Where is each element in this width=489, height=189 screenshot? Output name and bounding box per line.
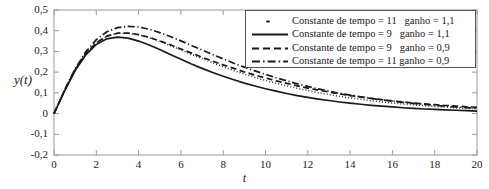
x-tick-label: 8 [208, 158, 238, 170]
legend-line-sample-dotted [246, 14, 292, 27]
legend-line-sample-dashdot [246, 54, 292, 67]
chart-figure: y(t) t 0,50,40,30,20,10-0,1-0,2 02468101… [0, 0, 489, 189]
legend-line-sample-dashed [246, 41, 292, 54]
x-tick-label: 4 [124, 158, 154, 170]
x-axis-label: t [0, 171, 489, 186]
legend-item-label: Constante de tempo = 11 ganho = 1,1 [292, 14, 455, 27]
x-tick-label: 0 [39, 158, 69, 170]
x-tick-label: 20 [462, 158, 489, 170]
y-tick-label: 0,2 [8, 65, 48, 77]
legend-item: Constante de tempo = 9 ganho = 0,9 [246, 41, 477, 54]
x-tick-label: 16 [377, 158, 407, 170]
legend-item: Constante de tempo = 11 ganho = 1,1 [246, 14, 477, 27]
x-tick-label: 18 [420, 158, 450, 170]
legend: Constante de tempo = 11 ganho = 1,1Const… [245, 10, 476, 68]
y-tick-label: 0 [8, 107, 48, 119]
legend-item-label: Constante de tempo = 11 ganho = 0,9 [292, 54, 449, 67]
x-tick-label: 12 [293, 158, 323, 170]
y-tick-label: 0,1 [8, 86, 48, 98]
y-tick-label: 0,3 [8, 44, 48, 56]
legend-item: Constante de tempo = 11 ganho = 0,9 [246, 54, 477, 67]
legend-item: Constante de tempo = 9 ganho = 1,1 [246, 27, 477, 40]
y-tick-label: 0,4 [8, 24, 48, 36]
y-tick-label: 0,5 [8, 3, 48, 15]
legend-item-label: Constante de tempo = 9 ganho = 0,9 [292, 41, 450, 54]
x-tick-label: 14 [335, 158, 365, 170]
x-tick-label: 6 [166, 158, 196, 170]
x-tick-label: 10 [251, 158, 281, 170]
x-tick-label: 2 [81, 158, 111, 170]
legend-item-label: Constante de tempo = 9 ganho = 1,1 [292, 27, 450, 40]
y-tick-label: -0,1 [8, 127, 48, 139]
legend-line-sample-solid [246, 27, 292, 40]
